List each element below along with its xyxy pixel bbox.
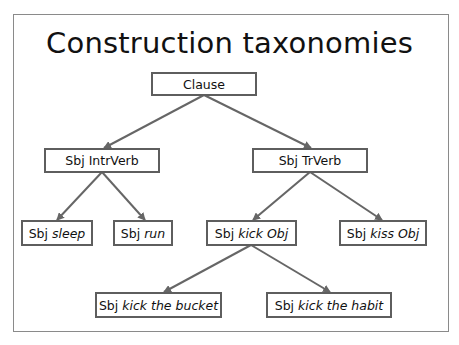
node-label-italic: kiss Obj	[370, 226, 419, 241]
edge-kick-bucket	[164, 245, 251, 292]
node-label-italic: kick Obj	[238, 226, 288, 241]
edge-clause-intrverb	[104, 95, 204, 148]
node-label: Sbj	[99, 298, 122, 313]
edge-kick-habit	[251, 245, 330, 292]
node-sbj-kick-the-habit: Sbj kick the habit	[266, 292, 392, 318]
edge-trverb-kick	[253, 172, 310, 220]
node-sbj-sleep: Sbj sleep	[21, 220, 93, 246]
node-sbj-intrverb: Sbj IntrVerb	[44, 148, 160, 173]
node-label-italic: kick the bucket	[122, 298, 218, 313]
edge-intrverb-run	[102, 172, 145, 220]
node-label: Sbj	[275, 298, 298, 313]
edge-intrverb-sleep	[57, 172, 102, 220]
edge-clause-trverb	[204, 95, 311, 148]
node-label: Sbj	[121, 226, 144, 241]
node-label: Sbj	[347, 226, 370, 241]
node-sbj-trverb: Sbj TrVerb	[252, 148, 368, 173]
node-label: Sbj TrVerb	[279, 153, 342, 168]
node-label-italic: sleep	[52, 226, 85, 241]
node-sbj-run: Sbj run	[113, 220, 173, 246]
node-label: Sbj	[215, 226, 238, 241]
node-label: Clause	[183, 77, 225, 92]
node-sbj-kick-the-bucket: Sbj kick the bucket	[95, 292, 222, 318]
node-label-italic: run	[144, 226, 165, 241]
node-clause: Clause	[151, 72, 257, 96]
edge-trverb-kiss	[310, 172, 382, 220]
node-sbj-kick-obj: Sbj kick Obj	[206, 220, 297, 246]
node-label: Sbj IntrVerb	[65, 153, 138, 168]
node-sbj-kiss-obj: Sbj kiss Obj	[339, 220, 427, 246]
node-label: Sbj	[29, 226, 52, 241]
node-label-italic: kick the habit	[298, 298, 383, 313]
